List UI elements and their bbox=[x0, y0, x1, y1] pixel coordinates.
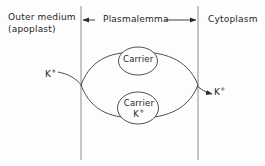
potassium-release-arrow bbox=[197, 86, 212, 94]
potassium-inside-charge: + bbox=[220, 85, 226, 93]
diagram-canvas: Outer medium (apoplast) Plasmalemma Cyto… bbox=[0, 0, 265, 166]
loaded-carrier-ion-charge: + bbox=[139, 107, 145, 115]
outer-medium-label-line2: (apoplast) bbox=[8, 24, 56, 34]
potassium-inside-label: K+ bbox=[214, 87, 226, 97]
potassium-outside-charge: + bbox=[51, 67, 57, 75]
plasmalemma-label: Plasmalemma bbox=[103, 14, 169, 24]
outer-medium-label-line1: Outer medium bbox=[8, 12, 76, 22]
cytoplasm-label: Cytoplasm bbox=[208, 14, 258, 24]
potassium-uptake-path bbox=[58, 72, 82, 86]
loaded-carrier-label: Carrier K+ bbox=[122, 98, 156, 120]
free-carrier-label: Carrier bbox=[123, 54, 153, 64]
potassium-outside-label: K+ bbox=[45, 69, 57, 79]
outer-medium-label: Outer medium (apoplast) bbox=[8, 11, 76, 35]
